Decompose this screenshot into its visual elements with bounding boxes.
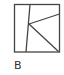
geometric-diagram <box>0 0 64 75</box>
outer-square <box>15 5 60 53</box>
upper-diagonal-line <box>29 14 60 24</box>
lower-diagonal-line <box>29 24 59 52</box>
near-vertical-line <box>26 5 30 53</box>
figure-label: B <box>14 60 22 71</box>
